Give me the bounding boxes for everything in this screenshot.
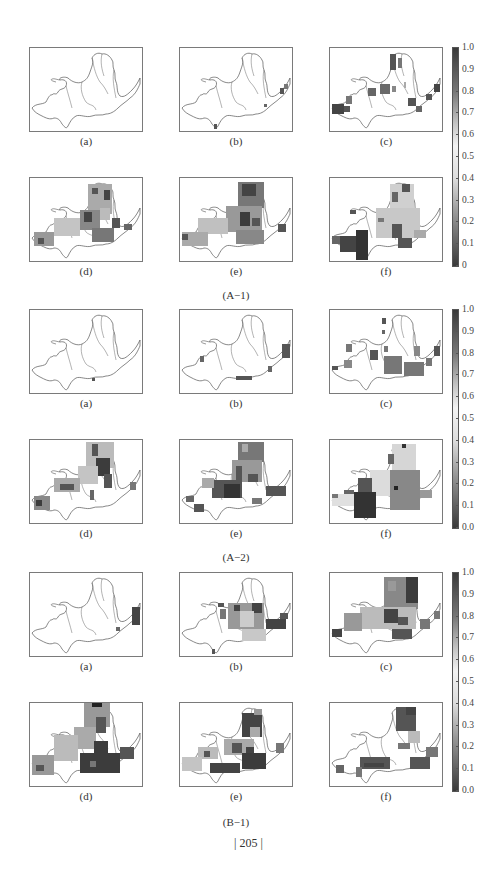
colorbar-tick: 0.6 <box>462 129 474 139</box>
panel-label: (c) <box>329 660 443 672</box>
map-panel-d <box>29 702 143 787</box>
panel-label: (a) <box>29 135 143 147</box>
colorbar-tick: 0.4 <box>462 173 474 183</box>
colorbar-tick: 0.7 <box>462 632 474 642</box>
colorbar-tick: 0.0 <box>462 785 474 795</box>
colorbar-tick: 0.2 <box>462 741 474 751</box>
map-panel-f <box>329 439 443 524</box>
colorbar-tick: 0.1 <box>462 763 474 773</box>
figure-group-a1: (a) (b) (c) (d) (e) <box>0 0 497 300</box>
colorbar-tick: 0.6 <box>462 391 474 401</box>
panel-label: (d) <box>29 790 143 802</box>
colorbar-ticks: 1.0 0.9 0.8 0.7 0.6 0.5 0.4 0.3 0.2 0.1 … <box>462 304 492 534</box>
panel-label: (b) <box>179 135 293 147</box>
map-panel-e <box>179 439 293 524</box>
figure-group-b1: (a) (b) (c) (d) <box>0 525 497 835</box>
map-panel-d <box>29 177 143 262</box>
colorbar-tick: 0.9 <box>462 589 474 599</box>
map-panel-e <box>179 702 293 787</box>
map-panel-c <box>329 47 443 132</box>
map-panel-c <box>329 309 443 394</box>
colorbar-tick: 1.0 <box>462 304 474 314</box>
colorbar-ticks: 1.0 0.9 0.8 0.7 0.6 0.5 0.4 0.3 0.2 0.1 … <box>462 42 492 272</box>
colorbar-tick: 0.5 <box>462 413 474 423</box>
map-panel-a <box>29 572 143 657</box>
colorbar-tick: 0.6 <box>462 654 474 664</box>
panel-label: (a) <box>29 397 143 409</box>
colorbar-tick: 0.8 <box>462 86 474 96</box>
map-panel-b <box>179 572 293 657</box>
panel-label: (b) <box>179 660 293 672</box>
colorbar <box>452 47 459 267</box>
figure-caption: (B−1) <box>179 816 293 828</box>
colorbar-tick: 0.5 <box>462 151 474 161</box>
colorbar-tick: 0.9 <box>462 64 474 74</box>
colorbar-tick: 0.1 <box>462 238 474 248</box>
colorbar-tick: 0.2 <box>462 478 474 488</box>
page-number: | 205 | <box>0 836 497 851</box>
map-panel-b <box>179 47 293 132</box>
map-panel-f <box>329 177 443 262</box>
colorbar-ticks: 1.0 0.9 0.8 0.7 0.6 0.5 0.4 0.3 0.2 0.1 … <box>462 567 492 797</box>
colorbar-tick: 0.7 <box>462 369 474 379</box>
colorbar-tick: 0.4 <box>462 698 474 708</box>
colorbar-tick: 0.8 <box>462 348 474 358</box>
figure-group-a2: (a) (b) (c) (d) (e) <box>0 262 497 562</box>
panel-label: (c) <box>329 135 443 147</box>
colorbar <box>452 309 459 529</box>
colorbar-tick: 0.3 <box>462 457 474 467</box>
colorbar-tick: 1.0 <box>462 567 474 577</box>
map-panel-a <box>29 309 143 394</box>
map-panel-a <box>29 47 143 132</box>
map-panel-f <box>329 702 443 787</box>
colorbar-tick: 0.3 <box>462 195 474 205</box>
panel-label: (e) <box>179 790 293 802</box>
colorbar-tick: 0.3 <box>462 720 474 730</box>
panel-label: (a) <box>29 660 143 672</box>
colorbar-tick: 0.5 <box>462 676 474 686</box>
map-panel-b <box>179 309 293 394</box>
map-panel-e <box>179 177 293 262</box>
colorbar-tick: 0.9 <box>462 326 474 336</box>
panel-label: (c) <box>329 397 443 409</box>
colorbar-tick: 0.8 <box>462 611 474 621</box>
colorbar-tick: 0.4 <box>462 435 474 445</box>
panel-label: (f) <box>329 790 443 802</box>
colorbar-tick: 0.2 <box>462 216 474 226</box>
panel-label: (b) <box>179 397 293 409</box>
map-panel-c <box>329 572 443 657</box>
colorbar-tick: 1.0 <box>462 42 474 52</box>
colorbar-tick: 0.7 <box>462 107 474 117</box>
colorbar <box>452 572 459 792</box>
colorbar-tick: 0.1 <box>462 500 474 510</box>
map-panel-d <box>29 439 143 524</box>
